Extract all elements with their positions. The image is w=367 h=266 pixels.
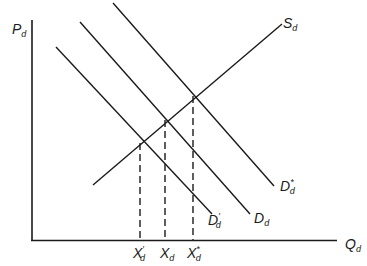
supply-curve-label: Sd [283, 15, 298, 33]
supply-demand-diagram: Pd Qd Sd D′d Dd D*d X′d Xd X*d [0, 0, 367, 266]
x-tick-label-high: X*d [186, 244, 202, 263]
demand-curve-high-label: D*d [280, 177, 296, 196]
demand-curve-low [56, 47, 212, 214]
x-axis-label: Qd [345, 236, 362, 254]
demand-curve-label: Dd [254, 210, 270, 228]
demand-curve-high [113, 3, 274, 186]
demand-curve-low-label: D′d [208, 211, 222, 230]
y-axis-label: Pd [12, 21, 27, 39]
demand-curve [80, 22, 250, 214]
x-tick-label-low: X′d [132, 244, 146, 263]
x-tick-label: Xd [159, 245, 175, 263]
supply-curve [93, 24, 282, 185]
